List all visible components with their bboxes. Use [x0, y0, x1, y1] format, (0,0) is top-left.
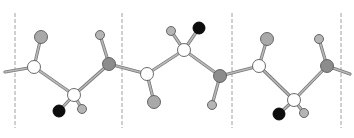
atom-white — [141, 68, 154, 81]
atom-white — [68, 89, 81, 102]
atom-light-gray — [96, 31, 105, 40]
atom-black — [193, 22, 205, 34]
bond — [294, 66, 327, 100]
atom-light-gray — [167, 27, 176, 36]
polymer-chain-diagram — [0, 0, 354, 138]
atom-light-gray — [78, 105, 87, 114]
atom-white — [253, 60, 266, 73]
atom-white — [178, 44, 191, 57]
bond — [34, 67, 74, 95]
atom-gray — [35, 31, 48, 44]
atom-gray — [261, 33, 274, 46]
bond — [74, 64, 109, 95]
atom-dark-gray — [103, 58, 116, 71]
atom-light-gray — [300, 109, 309, 118]
atom-white — [28, 61, 41, 74]
bond — [259, 66, 294, 100]
atom-gray — [148, 96, 161, 109]
atom-dark-gray — [321, 60, 334, 73]
atom-dark-gray — [214, 70, 227, 83]
atom-white — [288, 94, 301, 107]
molecule-canvas — [0, 0, 354, 138]
atom-light-gray — [208, 101, 217, 110]
atom-light-gray — [315, 35, 324, 44]
atom-black — [53, 105, 65, 117]
atom-black — [273, 108, 285, 120]
